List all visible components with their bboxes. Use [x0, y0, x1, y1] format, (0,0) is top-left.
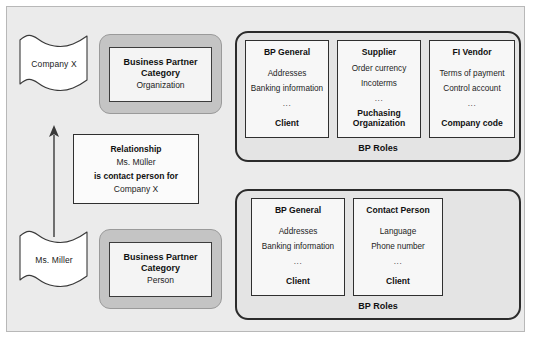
banner-label: Ms. Miller — [17, 229, 91, 291]
bp-category-title-line2: Category — [141, 68, 180, 79]
bp-category-title-line2: Category — [141, 263, 180, 274]
role-attribute: Incoterms — [361, 79, 397, 88]
bp-roles-caption-organization: BP Roles — [237, 143, 519, 153]
role-card-footer: Company code — [441, 119, 503, 137]
banner-company-x: Company X — [17, 33, 91, 95]
bp-category-title-line1: Business Partner — [123, 57, 197, 68]
role-ellipsis: ... — [283, 100, 291, 108]
role-card-title: Contact Person — [366, 206, 430, 216]
role-card-attributes: Language Phone number ... — [354, 216, 442, 277]
bp-category-person-inner: Business Partner Category Person — [109, 242, 212, 297]
role-attribute: Order currency — [352, 64, 407, 73]
role-attribute: Phone number — [371, 242, 425, 251]
role-attribute: Terms of payment — [439, 69, 504, 78]
bp-category-person: Business Partner Category Person — [99, 229, 222, 309]
bp-roles-cards-organization: BP General Addresses Banking information… — [245, 40, 515, 138]
role-card-title: BP General — [275, 206, 321, 216]
role-card-footer: Puchasing Organization — [338, 109, 420, 137]
role-card-footer: Client — [386, 277, 410, 295]
bp-roles-caption-person: BP Roles — [237, 301, 519, 311]
relationship-subject: Ms. Müller — [116, 157, 155, 167]
bp-roles-cards-person: BP General Addresses Banking information… — [251, 198, 443, 296]
bp-category-organization: Business Partner Category Organization — [99, 34, 222, 114]
role-card-title: FI Vendor — [452, 48, 491, 58]
bp-category-organization-inner: Business Partner Category Organization — [109, 47, 212, 102]
bp-roles-group-organization: BP General Addresses Banking information… — [235, 31, 521, 162]
relationship-heading: Relationship — [110, 144, 161, 154]
bp-category-title-line1: Business Partner — [123, 252, 197, 263]
role-ellipsis: ... — [468, 100, 476, 108]
role-attribute: Banking information — [251, 84, 323, 93]
arrow-up-icon — [43, 123, 65, 237]
role-card-footer: Client — [275, 119, 299, 137]
relationship-box: Relationship Ms. Müller is contact perso… — [73, 134, 199, 204]
role-card-title: Supplier — [362, 48, 396, 58]
relationship-predicate: is contact person for — [94, 171, 178, 181]
banner-ms-miller: Ms. Miller — [17, 229, 91, 291]
role-ellipsis: ... — [294, 258, 302, 266]
diagram-canvas: Company X Business Partner Category Orga… — [6, 6, 525, 332]
role-attribute: Addresses — [279, 227, 318, 236]
role-card-supplier[interactable]: Supplier Order currency Incoterms ... Pu… — [337, 40, 421, 138]
role-card-attributes: Order currency Incoterms ... — [338, 58, 420, 109]
relationship-arrow — [43, 123, 65, 237]
role-card-contact-person[interactable]: Contact Person Language Phone number ...… — [353, 198, 443, 296]
role-card-title: BP General — [264, 48, 310, 58]
role-card-fi-vendor[interactable]: FI Vendor Terms of payment Control accou… — [429, 40, 515, 138]
role-card-bp-general-org[interactable]: BP General Addresses Banking information… — [245, 40, 329, 138]
role-attribute: Control account — [443, 84, 500, 93]
role-card-attributes: Addresses Banking information ... — [252, 216, 344, 277]
bp-category-value: Person — [147, 275, 174, 285]
role-card-bp-general-person[interactable]: BP General Addresses Banking information… — [251, 198, 345, 296]
role-card-attributes: Addresses Banking information ... — [246, 58, 328, 119]
bp-category-value: Organization — [136, 80, 184, 90]
role-attribute: Addresses — [268, 69, 307, 78]
role-card-attributes: Terms of payment Control account ... — [430, 58, 514, 119]
role-card-footer: Client — [286, 277, 310, 295]
bp-roles-group-person: BP General Addresses Banking information… — [235, 189, 521, 320]
role-attribute: Banking information — [262, 242, 334, 251]
relationship-object: Company X — [114, 184, 158, 194]
role-ellipsis: ... — [375, 95, 383, 103]
role-ellipsis: ... — [394, 258, 402, 266]
role-attribute: Language — [380, 227, 416, 236]
banner-label: Company X — [17, 33, 91, 95]
